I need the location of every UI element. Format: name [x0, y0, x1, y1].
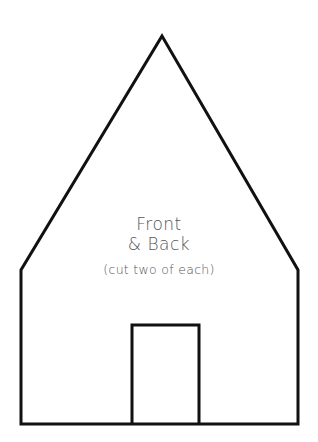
cut-instruction: (cut two of each) — [0, 262, 318, 277]
title-line-front: Front — [0, 214, 318, 234]
title-line-back: & Back — [0, 234, 318, 254]
door-outline — [132, 325, 199, 424]
